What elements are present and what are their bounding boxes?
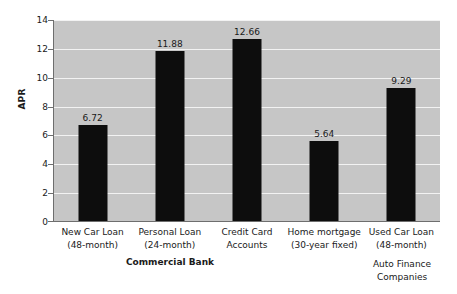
bar-value-label: 9.29 [371, 76, 431, 86]
x-category-line: Accounts [208, 239, 285, 252]
y-tick-label: 14 [18, 15, 48, 25]
group-label-line: Auto Finance [363, 258, 441, 271]
bar [232, 39, 261, 222]
x-category-label: New Car Loan (48-month) [54, 226, 131, 251]
y-tick-label: 10 [18, 73, 48, 83]
bar-slot: 9.29 [363, 20, 440, 222]
bar [310, 141, 339, 222]
bar-value-label: 5.64 [294, 129, 354, 139]
bar-slot: 6.72 [54, 20, 131, 222]
y-tick-mark [48, 135, 53, 136]
x-category-label: Personal Loan (24-month) [131, 226, 208, 251]
y-tick-label: 4 [18, 159, 48, 169]
bar [78, 125, 107, 222]
bar-slot: 5.64 [286, 20, 363, 222]
y-tick-mark [48, 49, 53, 50]
group-label-auto-finance-companies: Auto Finance Companies [363, 258, 441, 283]
x-category-label: Credit Card Accounts [208, 226, 285, 251]
bar-slot: 11.88 [131, 20, 208, 222]
bar-value-label: 11.88 [140, 39, 200, 49]
y-tick-label: 12 [18, 44, 48, 54]
x-category-label: Home mortgage (30-year fixed) [286, 226, 363, 251]
plot-area: 6.72 11.88 12.66 5.64 9.29 [54, 20, 440, 222]
x-category-line: (48-month) [54, 239, 131, 252]
group-label-commercial-bank: Commercial Bank [54, 257, 286, 267]
x-category-line: Personal Loan [131, 226, 208, 239]
x-category-line: Credit Card [208, 226, 285, 239]
bar-slot: 12.66 [208, 20, 285, 222]
y-tick-mark [48, 164, 53, 165]
y-axis-tick-labels: 14 12 10 8 6 4 2 0 [18, 20, 48, 222]
bar-chart: APR 14 12 10 8 6 4 2 0 6.72 11.88 [0, 0, 457, 294]
x-category-line: (30-year fixed) [286, 239, 363, 252]
y-tick-mark [48, 78, 53, 79]
y-tick-label: 6 [18, 130, 48, 140]
y-tick-mark [48, 20, 53, 21]
x-category-label: Used Car Loan (48-month) [363, 226, 440, 251]
x-category-line: (24-month) [131, 239, 208, 252]
bar [155, 51, 184, 222]
x-category-line: Used Car Loan [363, 226, 440, 239]
bar-value-label: 12.66 [217, 27, 277, 37]
y-tick-mark [48, 193, 53, 194]
y-tick-label: 8 [18, 102, 48, 112]
group-label-line: Companies [363, 271, 441, 284]
x-category-line: New Car Loan [54, 226, 131, 239]
bar [387, 88, 416, 222]
x-axis-category-labels: New Car Loan (48-month) Personal Loan (2… [54, 226, 440, 256]
x-axis-line [54, 221, 440, 222]
y-tick-mark [48, 221, 53, 222]
x-category-line: (48-month) [363, 239, 440, 252]
y-tick-mark [48, 107, 53, 108]
x-category-line: Home mortgage [286, 226, 363, 239]
y-tick-label: 0 [18, 217, 48, 227]
bar-value-label: 6.72 [63, 113, 123, 123]
y-tick-label: 2 [18, 188, 48, 198]
